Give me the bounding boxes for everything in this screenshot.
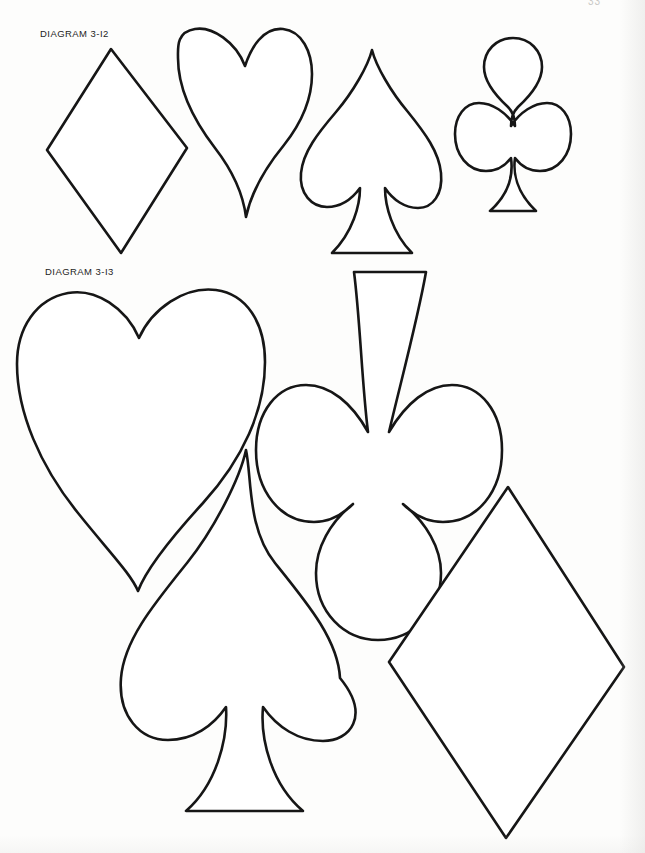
small-club-shape bbox=[455, 38, 571, 211]
small-diamond-shape bbox=[47, 49, 187, 253]
small-heart-shape bbox=[178, 29, 312, 217]
small-spade-shape bbox=[301, 50, 441, 253]
pattern-page: 33 DIAGRAM 3-I2 DIAGRAM 3-I3 bbox=[0, 0, 645, 853]
suit-template-artwork bbox=[0, 0, 645, 853]
